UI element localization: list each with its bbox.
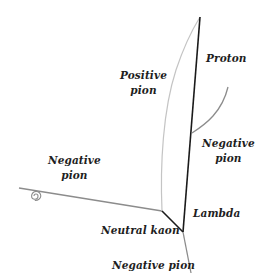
particle-tracks-diagram: Proton Positive pion Negative pion Negat…	[0, 0, 265, 280]
positive-pion-label-line1: Positive	[120, 68, 167, 83]
lambda-label: Lambda	[193, 206, 240, 221]
positive-pion-label-line2: pion	[120, 83, 167, 98]
negative-pion-left-label-line1: Negative	[48, 153, 101, 168]
positive-pion-label: Positive pion	[120, 68, 167, 98]
negative-pion-right-track	[192, 87, 228, 133]
proton-label: Proton	[206, 51, 247, 66]
neutral-kaon-label: Neutral kaon	[101, 223, 180, 238]
negative-pion-left-label: Negative pion	[48, 153, 101, 183]
positive-pion-track	[161, 17, 200, 211]
negative-pion-right-label: Negative pion	[202, 136, 255, 166]
negative-pion-bottom-label: Negative pion	[112, 258, 195, 273]
negative-pion-right-label-line1: Negative	[202, 136, 255, 151]
negative-pion-left-track	[19, 188, 162, 211]
proton-track	[183, 17, 200, 232]
negative-pion-left-label-line2: pion	[48, 168, 101, 183]
negative-pion-right-label-line2: pion	[202, 151, 255, 166]
spiral-icon	[32, 191, 41, 200]
